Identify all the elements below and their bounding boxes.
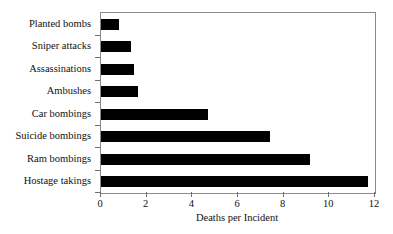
y-axis-tick [95, 35, 100, 36]
x-axis-tick-label: 4 [176, 198, 206, 210]
bar [101, 176, 368, 187]
x-axis-tick [146, 192, 147, 197]
x-axis-tick-label: 0 [85, 198, 115, 210]
y-axis-tick [95, 80, 100, 81]
x-axis-tick-label: 6 [222, 198, 252, 210]
x-axis-tick [191, 192, 192, 197]
y-axis-tick [95, 125, 100, 126]
x-axis-title: Deaths per Incident [100, 212, 374, 224]
bar [101, 109, 208, 120]
y-axis-tick [95, 170, 100, 171]
y-axis-tick [95, 147, 100, 148]
y-axis-tick [95, 102, 100, 103]
x-axis-tick-label: 12 [359, 198, 389, 210]
category-label: Planted bombs [0, 18, 91, 29]
category-axis: Planted bombsSniper attacksAssassination… [0, 12, 96, 192]
x-axis-tick-label: 10 [313, 198, 343, 210]
bar [101, 86, 138, 97]
category-label: Suicide bombings [0, 130, 91, 141]
x-axis-tick-label: 8 [268, 198, 298, 210]
plot-area [100, 12, 376, 194]
category-label: Car bombings [0, 108, 91, 119]
bars-container [101, 13, 375, 193]
category-label: Ram bombings [0, 153, 91, 164]
bar [101, 19, 119, 30]
bar [101, 64, 134, 75]
x-axis-tick-label: 2 [131, 198, 161, 210]
x-axis-tick [328, 192, 329, 197]
bar [101, 41, 131, 52]
x-axis-tick [374, 192, 375, 197]
category-label: Ambushes [0, 85, 91, 96]
category-label: Assassinations [0, 63, 91, 74]
x-axis-tick [100, 192, 101, 197]
y-axis-tick [95, 57, 100, 58]
bar [101, 154, 310, 165]
bar-chart: Planted bombsSniper attacksAssassination… [0, 0, 393, 234]
category-label: Hostage takings [0, 175, 91, 186]
x-axis-tick [237, 192, 238, 197]
category-label: Sniper attacks [0, 40, 91, 51]
x-axis-tick [283, 192, 284, 197]
bar [101, 131, 270, 142]
